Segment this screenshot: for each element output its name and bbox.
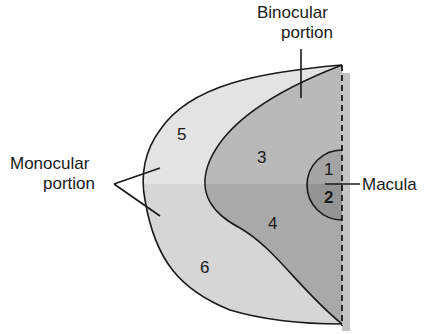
monocular-label-line2: portion	[43, 173, 95, 194]
binocular-label-line1: Binocular	[257, 2, 328, 23]
region-4-label: 4	[268, 214, 277, 234]
binocular-label-line2: portion	[281, 22, 333, 43]
region-5-label: 5	[177, 125, 186, 145]
macula-label: Macula	[362, 174, 417, 195]
monocular-label-line1: Monocular	[10, 153, 89, 174]
midline-shadow	[342, 73, 350, 331]
region-2-label: 2	[324, 188, 333, 208]
region-1-label: 1	[324, 160, 333, 180]
region-6-label: 6	[200, 258, 209, 278]
region-3-label: 3	[257, 148, 266, 168]
